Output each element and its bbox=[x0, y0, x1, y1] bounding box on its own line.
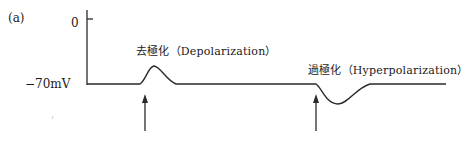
membrane-potential-diagram bbox=[0, 0, 467, 142]
hyperpolarization-stimulus-arrow bbox=[313, 94, 319, 131]
membrane-potential-trace bbox=[87, 66, 446, 104]
depolarization-stimulus-arrow bbox=[142, 94, 148, 131]
scan-artifact bbox=[52, 116, 53, 119]
